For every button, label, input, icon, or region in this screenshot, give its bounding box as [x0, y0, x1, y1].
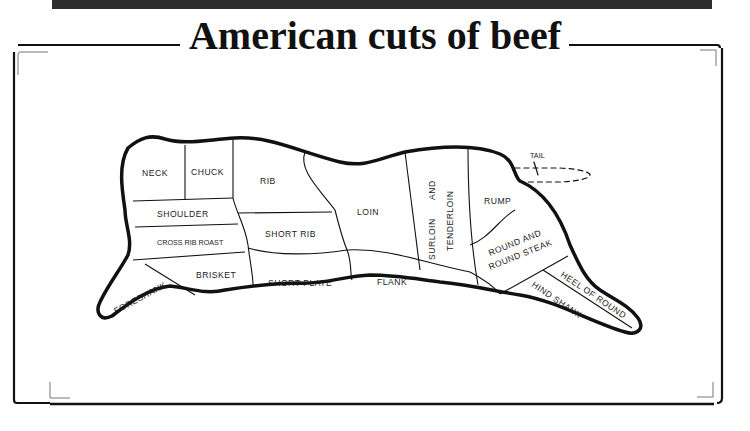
label-flank: FLANK: [377, 277, 407, 287]
label-loin: LOIN: [357, 207, 379, 217]
label-brisket: BRISKET: [196, 270, 237, 280]
label-cross-rib-roast: CROSS RIB ROAST: [157, 238, 224, 247]
label-shoulder: SHOULDER: [157, 209, 209, 219]
label-tail: TAIL: [530, 151, 545, 160]
label-and: AND: [427, 180, 437, 200]
label-tenderloin: TENDERLOIN: [445, 191, 455, 251]
label-chuck: CHUCK: [191, 167, 224, 177]
label-surloin: SURLOIN: [427, 218, 437, 260]
beef-cuts-diagram: NECK CHUCK RIB SHOULDER CROSS RIB ROAST …: [0, 0, 750, 431]
label-neck: NECK: [142, 168, 168, 178]
label-rib: RIB: [260, 176, 276, 186]
label-short-rib: SHORT RIB: [265, 229, 316, 239]
label-rump: RUMP: [484, 196, 511, 206]
diagram-title-wrap: American cuts of beef: [0, 10, 750, 62]
label-short-plate: SHORT PLATE: [268, 278, 332, 288]
page-title: American cuts of beef: [181, 13, 569, 58]
